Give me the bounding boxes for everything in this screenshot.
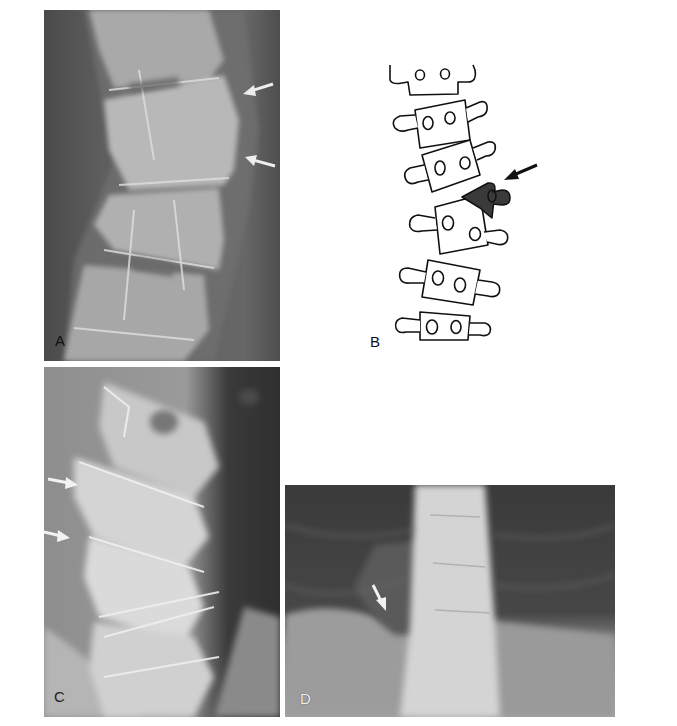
vertebral-column-drawing [340, 40, 560, 360]
panel-d-radiograph: D [285, 485, 615, 717]
panel-label-d: D [300, 691, 311, 706]
panel-b-diagram: B [340, 40, 560, 360]
panel-label-a: A [55, 333, 65, 348]
panel-label-c: C [54, 689, 65, 704]
radiograph-image-d [285, 485, 615, 717]
radiograph-image-a [44, 10, 280, 361]
panel-label-b: B [370, 334, 380, 349]
radiograph-image-c [44, 367, 280, 717]
panel-a-radiograph: A [44, 10, 280, 361]
arrow-icon [504, 165, 537, 180]
panel-c-radiograph: C [44, 367, 280, 717]
